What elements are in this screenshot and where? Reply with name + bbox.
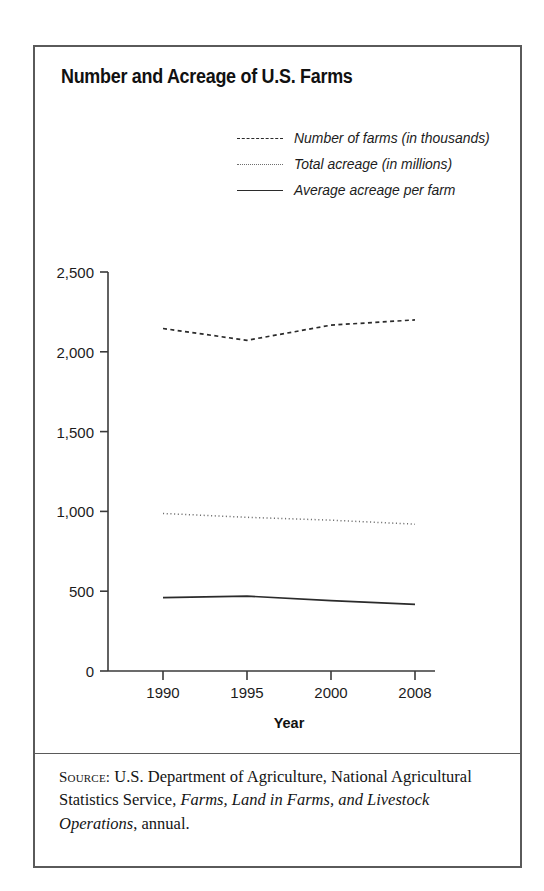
series-line-0 bbox=[163, 320, 415, 340]
series-line-1 bbox=[163, 513, 415, 524]
y-axis-tick-label: 0 bbox=[34, 663, 94, 680]
plot-area: 05001,0001,5002,0002,5001990199520002008… bbox=[35, 47, 524, 870]
y-axis-tick-label: 2,000 bbox=[34, 343, 94, 360]
y-axis-tick-label: 2,500 bbox=[34, 264, 94, 281]
series-line-2 bbox=[163, 596, 415, 604]
plot-svg bbox=[35, 47, 524, 870]
y-axis-tick-label: 1,000 bbox=[34, 503, 94, 520]
source-divider bbox=[35, 753, 520, 754]
y-axis-tick-label: 500 bbox=[34, 583, 94, 600]
source-note: Source: U.S. Department of Agriculture, … bbox=[59, 765, 500, 835]
x-axis-title: Year bbox=[229, 715, 349, 731]
x-axis-tick-label: 1990 bbox=[128, 684, 198, 701]
x-axis-tick-label: 2000 bbox=[296, 684, 366, 701]
figure-frame: Number and Acreage of U.S. Farms Number … bbox=[33, 45, 522, 868]
source-kicker: Source: bbox=[59, 769, 110, 785]
x-axis-tick-label: 2008 bbox=[380, 684, 450, 701]
x-axis-tick-label: 1995 bbox=[212, 684, 282, 701]
source-text-after: , annual. bbox=[133, 814, 189, 833]
y-axis-tick-label: 1,500 bbox=[34, 423, 94, 440]
